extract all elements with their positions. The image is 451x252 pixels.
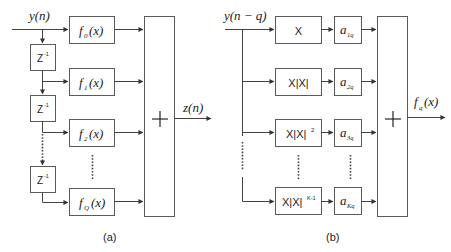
nonlinear-term: X|X| <box>288 77 308 89</box>
delay-label: Z <box>37 104 43 115</box>
caption-a: (a) <box>103 231 116 243</box>
function-subscript: 2 <box>84 135 88 143</box>
coefficient-block-k: a Kq <box>335 188 362 215</box>
nonlinear-block-1: X <box>276 17 322 44</box>
delay-exponent: -1 <box>44 51 49 57</box>
coefficient-block-2: a 2q <box>335 69 362 96</box>
delay-exponent: -1 <box>44 173 49 179</box>
coefficient-subscript: 3q <box>346 134 354 141</box>
delay-exponent: -1 <box>44 102 49 108</box>
summation-block-b <box>378 17 408 217</box>
function-arg: (x) <box>89 75 103 90</box>
coefficient-block-1: a 1q <box>335 17 362 44</box>
output-label-arg: (x) <box>424 94 438 109</box>
nonlinear-block-k: X|X| K-1 <box>276 188 322 215</box>
nonlinear-term: X|X| <box>286 128 306 140</box>
function-block-q: f Q (x) <box>70 189 115 216</box>
function-block-1: f 1 (x) <box>70 69 115 96</box>
delay-label: Z <box>37 53 43 64</box>
function-subscript: Q <box>84 204 89 212</box>
nonlinear-term: X <box>295 25 303 37</box>
input-label-b: y(n − q) <box>222 8 267 23</box>
output-label-a: z(n) <box>182 100 203 115</box>
coefficient-name: a <box>340 22 347 37</box>
coefficient-subscript: 1q <box>347 31 354 38</box>
nonlinear-term: X|X| <box>282 196 302 208</box>
diagram-canvas: y(n) Z -1 Z -1 Z -1 f <box>0 0 451 252</box>
coefficient-block-3: a 3q <box>335 120 362 147</box>
function-block-0: f 0 (x) <box>70 17 115 44</box>
delay-label: Z <box>37 175 43 186</box>
branch-wire-3 <box>43 193 69 203</box>
delay-block-3: Z -1 <box>31 167 56 193</box>
coefficient-name: a <box>340 125 347 140</box>
function-subscript: 0 <box>84 32 88 40</box>
function-arg: (x) <box>91 195 105 210</box>
branch-wire-b3 <box>243 177 275 202</box>
input-label-a: y(n) <box>27 8 50 23</box>
coefficient-name: a <box>340 193 347 208</box>
delay-block-1: Z -1 <box>31 45 56 71</box>
nonlinear-block-2: X|X| <box>276 69 322 96</box>
delay-block-2: Z -1 <box>31 96 56 122</box>
function-block-2: f 2 (x) <box>70 120 115 147</box>
function-subscript: 1 <box>84 84 88 92</box>
nonlinear-exponent: K-1 <box>307 195 316 201</box>
function-arg: (x) <box>89 23 103 38</box>
function-arg: (x) <box>89 126 103 141</box>
panel-b: y(n − q) X X|X| X|X| 2 X|X| K-1 <box>222 8 445 243</box>
panel-a: y(n) Z -1 Z -1 Z -1 f <box>12 8 211 243</box>
coefficient-name: a <box>340 74 347 89</box>
nonlinear-block-3: X|X| 2 <box>276 120 322 147</box>
summation-block-a <box>145 17 175 217</box>
output-label-sub: q <box>419 104 423 112</box>
caption-b: (b) <box>326 231 339 243</box>
coefficient-subscript: 2q <box>347 83 354 90</box>
coefficient-subscript: Kq <box>346 202 355 209</box>
